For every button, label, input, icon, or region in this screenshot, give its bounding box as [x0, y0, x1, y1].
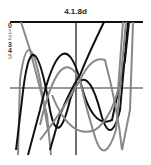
- chart: 4.1.8d 0 1 2 3 4 5: [0, 0, 151, 165]
- plot-area: [0, 0, 151, 165]
